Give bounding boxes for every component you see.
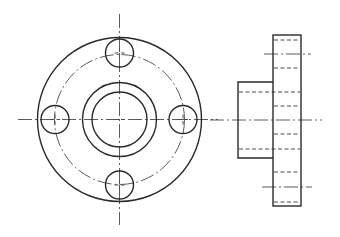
technical-drawing (0, 0, 340, 237)
front-view (18, 14, 218, 225)
side-view (210, 35, 322, 206)
flange-side-outline (273, 35, 301, 206)
